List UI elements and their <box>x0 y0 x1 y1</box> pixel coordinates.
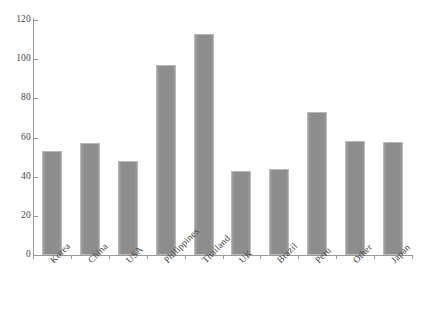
bar <box>194 34 214 255</box>
y-axis-tick-label: 20 <box>5 211 31 221</box>
x-axis-tick <box>336 255 337 259</box>
bar-chart: 020406080100120 KoreaChinaUSAPhilippines… <box>0 0 423 316</box>
y-axis-tick-label: 80 <box>5 93 31 103</box>
x-axis-tick <box>298 255 299 259</box>
bar <box>80 143 100 255</box>
y-axis-tick-label: 100 <box>5 54 31 64</box>
x-axis-tick <box>71 255 72 259</box>
x-axis-tick <box>260 255 261 259</box>
bar <box>118 161 138 255</box>
y-axis-tick-label: 40 <box>5 172 31 182</box>
y-axis-tick-label: 0 <box>5 250 31 260</box>
bar <box>156 65 176 255</box>
y-axis-tick-label: 120 <box>5 15 31 25</box>
y-axis-tick-label-wrap: 120 <box>0 15 31 25</box>
y-axis-tick-label-wrap: 80 <box>0 93 31 103</box>
x-axis-tick <box>109 255 110 259</box>
bar <box>269 169 289 255</box>
x-axis-tick <box>223 255 224 259</box>
y-axis-tick-label-wrap: 20 <box>0 211 31 221</box>
y-axis-tick-label-wrap: 60 <box>0 133 31 143</box>
x-axis-tick <box>412 255 413 259</box>
plot-area <box>33 20 412 255</box>
y-axis-tick-label-wrap: 40 <box>0 172 31 182</box>
bar <box>42 151 62 255</box>
bar <box>383 142 403 255</box>
x-axis-tick <box>185 255 186 259</box>
bar <box>231 171 251 255</box>
bar <box>345 141 365 255</box>
y-axis-tick-label-wrap: 100 <box>0 54 31 64</box>
y-axis-tick-label-wrap: 0 <box>0 250 31 260</box>
x-axis-tick <box>374 255 375 259</box>
x-axis-tick <box>33 255 34 259</box>
y-axis-tick-label: 60 <box>5 133 31 143</box>
x-axis-tick <box>147 255 148 259</box>
bar <box>307 112 327 255</box>
